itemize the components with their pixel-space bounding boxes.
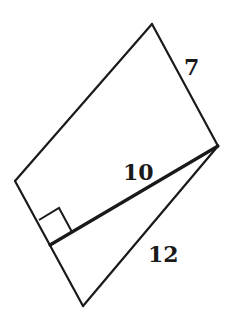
label-diagonal-10: 10 [123,159,154,185]
edge-top-to-right [152,24,218,146]
geometry-diagram: 7 10 12 [0,0,229,322]
edge-left-to-top [15,24,152,181]
label-side-7: 7 [184,54,199,80]
right-angle-mark [39,208,72,232]
label-side-12: 12 [148,241,179,267]
edge-left-to-bottom [15,181,83,306]
